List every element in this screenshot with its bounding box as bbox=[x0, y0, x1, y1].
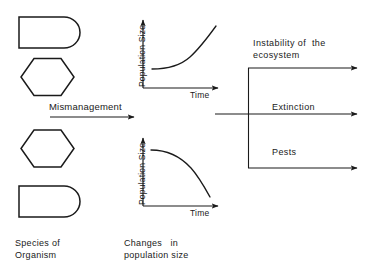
decline-chart-curve bbox=[151, 150, 210, 197]
growth-chart-x-axis-label: Time bbox=[190, 90, 209, 101]
outcome-label-instability-line2: ecosystem bbox=[253, 50, 300, 61]
growth-chart-curve bbox=[152, 26, 216, 69]
outcome-label-instability-line1: Instability of the bbox=[253, 38, 326, 49]
organism-shape-1-rounded-rectangle bbox=[19, 17, 80, 48]
charts-caption-line2: population size bbox=[124, 250, 189, 261]
growth-chart-y-axis-label: Population Size bbox=[137, 25, 148, 87]
charts-caption-line1: Changes in bbox=[124, 238, 178, 249]
organism-shape-4-rounded-rectangle bbox=[19, 186, 80, 217]
diagram-canvas: Mismanagement Population Size Time Popul… bbox=[0, 0, 373, 274]
decline-chart-y-axis-label: Population Size bbox=[137, 143, 148, 205]
organism-shape-3-hexagon bbox=[21, 130, 74, 167]
organism-shape-2-hexagon bbox=[21, 59, 74, 96]
mismanagement-label: Mismanagement bbox=[49, 101, 122, 113]
organisms-caption-line2: Organism bbox=[15, 250, 56, 261]
outcome-label-pests: Pests bbox=[272, 147, 297, 158]
decline-chart-x-axis-label: Time bbox=[190, 208, 209, 219]
organisms-caption-line1: Species of bbox=[15, 238, 60, 249]
outcome-label-extinction: Extinction bbox=[272, 102, 315, 113]
